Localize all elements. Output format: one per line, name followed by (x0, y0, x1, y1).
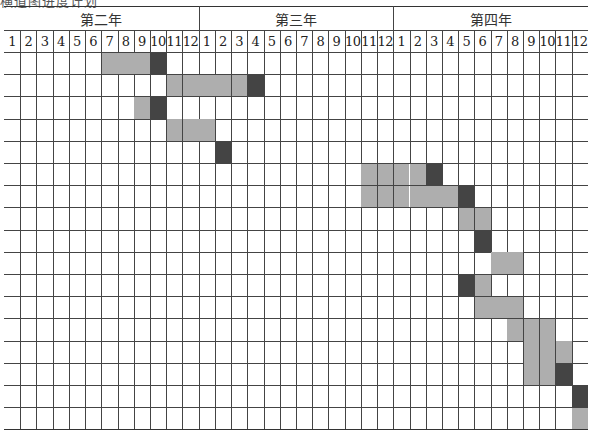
month-header: 11 (166, 30, 182, 52)
month-header: 1 (4, 30, 20, 52)
month-header: 12 (182, 30, 198, 52)
duration-cell (507, 252, 523, 274)
duration-cell (426, 186, 442, 208)
duration-cell (540, 363, 556, 385)
duration-cell (361, 186, 377, 208)
duration-cell (410, 186, 426, 208)
month-header: 7 (101, 30, 117, 52)
month-divider (280, 30, 281, 429)
month-header: 10 (150, 30, 166, 52)
duration-cell (183, 75, 199, 97)
month-header: 5 (458, 30, 474, 52)
month-divider (491, 30, 492, 429)
month-header: 2 (20, 30, 36, 52)
milestone-cell (556, 363, 572, 385)
duration-cell (442, 186, 458, 208)
duration-cell (572, 408, 588, 430)
month-header: 1 (199, 30, 215, 52)
milestone-cell (572, 386, 588, 408)
month-header: 2 (410, 30, 426, 52)
bottom-border (4, 429, 588, 430)
year-divider (199, 6, 200, 429)
duration-cell (183, 119, 199, 141)
duration-cell (134, 53, 150, 75)
month-divider (361, 30, 362, 429)
milestone-cell (426, 164, 442, 186)
month-header: 10 (345, 30, 361, 52)
duration-cell (118, 53, 134, 75)
duration-cell (507, 319, 523, 341)
duration-cell (410, 164, 426, 186)
month-divider (118, 30, 119, 429)
duration-cell (134, 97, 150, 119)
duration-cell (167, 119, 183, 141)
duration-cell (199, 75, 215, 97)
month-header: 3 (426, 30, 442, 52)
month-header: 10 (539, 30, 555, 52)
duration-cell (215, 75, 231, 97)
duration-cell (475, 208, 491, 230)
duration-cell (491, 252, 507, 274)
month-header: 4 (53, 30, 69, 52)
month-divider (20, 30, 21, 429)
duration-cell (507, 297, 523, 319)
year-divider (393, 6, 394, 429)
duration-cell (199, 119, 215, 141)
month-header: 1 (393, 30, 409, 52)
duration-cell (459, 208, 475, 230)
duration-cell (540, 341, 556, 363)
duration-cell (378, 164, 394, 186)
month-header: 7 (296, 30, 312, 52)
month-header: 2 (215, 30, 231, 52)
month-header: 8 (312, 30, 328, 52)
month-divider (150, 30, 151, 429)
milestone-cell (459, 186, 475, 208)
month-divider (572, 30, 573, 429)
month-header: 6 (85, 30, 101, 52)
duration-cell (475, 275, 491, 297)
month-header: 5 (264, 30, 280, 52)
duration-cell (394, 186, 410, 208)
milestone-cell (475, 230, 491, 252)
month-header: 3 (231, 30, 247, 52)
month-divider (134, 30, 135, 429)
month-header: 12 (572, 30, 588, 52)
month-header: 9 (328, 30, 344, 52)
duration-cell (524, 363, 540, 385)
month-header: 4 (442, 30, 458, 52)
month-divider (442, 30, 443, 429)
month-header: 6 (474, 30, 490, 52)
year-header: 第四年 (393, 7, 588, 30)
month-divider (264, 30, 265, 429)
month-divider (312, 30, 313, 429)
month-header: 8 (118, 30, 134, 52)
month-divider (426, 30, 427, 429)
month-header: 11 (361, 30, 377, 52)
month-divider (69, 30, 70, 429)
month-divider (507, 30, 508, 429)
duration-cell (167, 75, 183, 97)
month-header: 8 (507, 30, 523, 52)
month-divider (296, 30, 297, 429)
duration-cell (475, 297, 491, 319)
month-header: 5 (69, 30, 85, 52)
month-divider (85, 30, 86, 429)
month-divider (345, 30, 346, 429)
month-divider (36, 30, 37, 429)
month-header: 11 (555, 30, 571, 52)
milestone-cell (150, 53, 166, 75)
month-divider (101, 30, 102, 429)
month-header: 7 (491, 30, 507, 52)
milestone-cell (215, 141, 231, 163)
month-header: 4 (247, 30, 263, 52)
month-divider (410, 30, 411, 429)
month-divider (458, 30, 459, 429)
month-header: 6 (280, 30, 296, 52)
milestone-cell (459, 275, 475, 297)
month-divider (328, 30, 329, 429)
duration-cell (524, 319, 540, 341)
month-header: 9 (134, 30, 150, 52)
month-header: 12 (377, 30, 393, 52)
duration-cell (556, 341, 572, 363)
milestone-cell (248, 75, 264, 97)
